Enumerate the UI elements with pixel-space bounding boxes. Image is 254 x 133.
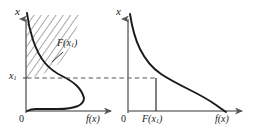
right-tick-close: ) <box>159 113 162 124</box>
left-annotation-close: ) <box>74 37 77 48</box>
right-tick-base: F(x <box>142 113 156 124</box>
right-panel-group <box>128 14 242 113</box>
statistics-figure: x x1 0 f(x) F(x1) x 0 F(x1) f(x) <box>0 0 254 133</box>
left-area-annotation-label: F(x1) <box>57 38 77 48</box>
right-vertical-axis-label: x <box>116 6 121 17</box>
left-horizontal-axis-label: f(x) <box>86 114 100 124</box>
right-horizontal-axis-label: f(x) <box>215 114 229 124</box>
left-vertical-axis-label: x <box>15 6 20 17</box>
left-annotation-base: F(x <box>57 37 71 48</box>
right-cumulative-curve <box>130 14 226 112</box>
left-x1-tick-subscript: 1 <box>13 75 16 81</box>
right-origin-label: 0 <box>121 114 126 124</box>
left-origin-label: 0 <box>19 114 24 124</box>
left-x1-tick-label: x1 <box>9 71 17 81</box>
left-panel-group <box>23 13 111 113</box>
right-Fx1-tick-label: F(x1) <box>142 114 162 124</box>
